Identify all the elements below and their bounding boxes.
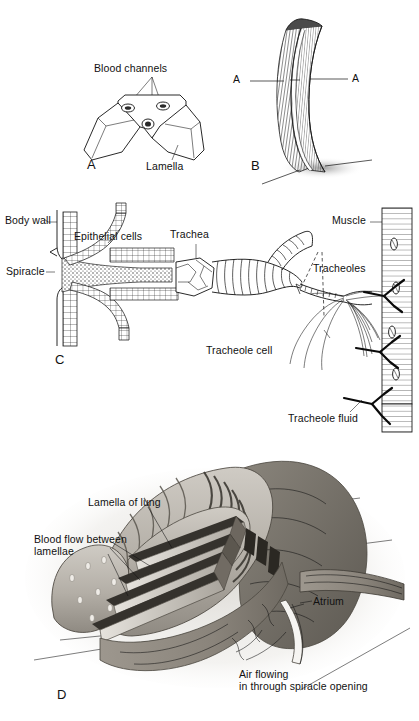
figure-canvas: Blood channels Lamella A xyxy=(0,0,419,721)
label-air-flowing-spiracle: Air flowing in through spiracle opening xyxy=(239,668,368,692)
label-lamella-of-lung: Lamella of lung xyxy=(88,497,161,509)
panel-d-drawing xyxy=(0,0,419,721)
panel-letter-d: D xyxy=(57,687,66,702)
label-atrium: Atrium xyxy=(313,596,344,608)
label-blood-flow-between-lamellae: Blood flow between lamellae xyxy=(34,533,127,557)
